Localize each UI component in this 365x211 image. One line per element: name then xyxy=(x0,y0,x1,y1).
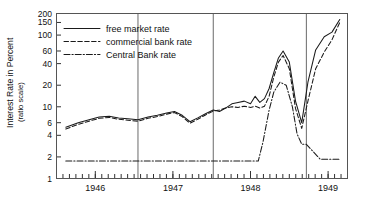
x-tick-label-1947: 1947 xyxy=(163,183,183,193)
y-axis-subtitle: (ratio scale) xyxy=(16,82,25,122)
series-line-central-bank-rate xyxy=(66,82,340,161)
x-tick-label-1948: 1948 xyxy=(240,183,260,193)
y-tick-label-40: 40 xyxy=(43,59,53,69)
y-tick-label-10: 10 xyxy=(43,102,53,112)
y-tick-label-20: 20 xyxy=(43,80,53,90)
y-axis-title-group: Interest Rate in Percent (ratio scale) xyxy=(5,37,25,128)
y-tick-label-60: 60 xyxy=(43,46,53,56)
legend: free market rate commercial bank rate Ce… xyxy=(64,24,192,60)
y-tick-label-2: 2 xyxy=(47,152,52,162)
y-tick-label-6: 6 xyxy=(47,118,52,128)
x-axis-tick-marks xyxy=(57,171,348,179)
y-tick-label-100: 100 xyxy=(38,30,52,40)
y-tick-label-1: 1 xyxy=(47,174,52,184)
x-tick-label-1949: 1949 xyxy=(318,183,338,193)
plot-frame xyxy=(57,14,348,179)
x-axis-tick-labels: 1946194719481949 xyxy=(85,183,338,193)
x-tick-label-1946: 1946 xyxy=(85,183,105,193)
y-axis-tick-marks xyxy=(57,14,62,179)
y-axis-title: Interest Rate in Percent xyxy=(5,37,15,128)
y-tick-label-4: 4 xyxy=(47,130,52,140)
interest-rate-line-chart: Interest Rate in Percent (ratio scale) 2… xyxy=(0,0,365,211)
y-tick-label-150: 150 xyxy=(38,17,52,27)
legend-label-commercial-bank-rate: commercial bank rate xyxy=(106,37,192,47)
legend-label-central-bank-rate: Central Bank rate xyxy=(106,50,176,60)
y-axis-tick-labels: 200150100604020106421 xyxy=(38,9,52,184)
legend-label-free-market-rate: free market rate xyxy=(106,24,170,34)
chart-figure: Interest Rate in Percent (ratio scale) 2… xyxy=(0,0,365,211)
